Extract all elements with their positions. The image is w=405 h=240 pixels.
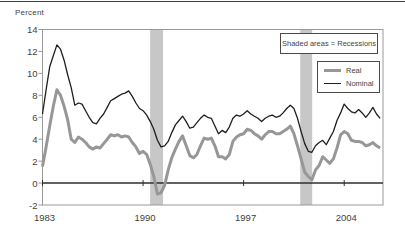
- gdp-growth-chart: Percent 14121086420-2 1983199019972004 S…: [0, 0, 405, 240]
- legend-row-real: Real: [324, 66, 379, 75]
- y-axis-tick-label: 4: [14, 134, 38, 145]
- y-axis-tick-label: -2: [14, 200, 38, 211]
- plot-frame: [43, 30, 384, 206]
- x-axis-tick-label: 1983: [28, 212, 62, 223]
- y-axis-title: Percent: [15, 8, 44, 17]
- y-axis-tick-label: 14: [14, 24, 38, 35]
- recession-band: [150, 30, 163, 206]
- y-axis-tick-label: 10: [14, 68, 38, 79]
- y-axis-tick-label: 2: [14, 156, 38, 167]
- nominal-legend-label: Nominal: [346, 79, 374, 88]
- y-axis-tick-label: 0: [14, 178, 38, 189]
- y-axis-tick-label: 12: [14, 46, 38, 57]
- real-legend-label: Real: [346, 66, 361, 75]
- y-axis-tick-label: 8: [14, 90, 38, 101]
- x-axis-tick-label: 1990: [128, 212, 162, 223]
- recession-note-text: Shaded areas = Recessions: [282, 39, 376, 48]
- real-line-swatch: [324, 69, 341, 72]
- legend-row-nominal: Nominal: [324, 79, 379, 88]
- recession-note-box: Shaded areas = Recessions: [280, 33, 378, 54]
- series-legend: Real Nominal: [317, 61, 380, 93]
- nominal-line-swatch: [324, 83, 341, 85]
- y-axis-tick-label: 6: [14, 112, 38, 123]
- x-axis-tick-label: 2004: [329, 212, 363, 223]
- x-axis-tick-label: 1997: [229, 212, 263, 223]
- series-line-real: [43, 90, 381, 194]
